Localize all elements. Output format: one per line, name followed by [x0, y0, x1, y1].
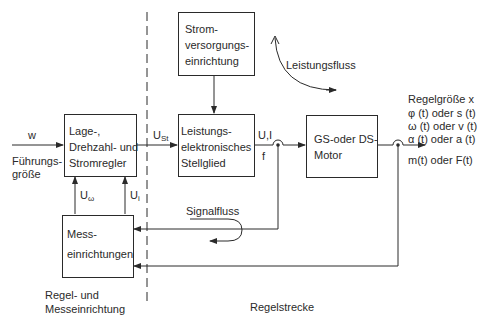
power-supply-label-3: einrichtung	[185, 53, 239, 69]
motor-block: GS-oder DS- Motor	[306, 115, 378, 178]
motor-label-1: GS-oder DS-	[314, 131, 378, 147]
left-section-label-1: Regel- und	[45, 288, 99, 302]
reference-label-2: größe	[12, 167, 41, 181]
output-title: Regelgröße x	[408, 92, 474, 106]
right-section-label: Regelstrecke	[250, 300, 314, 314]
power-supply-label-1: Strom-	[185, 21, 218, 37]
power-supply-label-2: versorgungs-	[185, 37, 249, 53]
signal-flow-label: Signalfluss	[186, 204, 239, 218]
measurement-block: Mess- einrichtungen	[62, 215, 134, 278]
power-electronics-label-3: Stellglied	[181, 155, 226, 171]
feedback-current-label: Ui	[130, 188, 140, 206]
motor-label-2: Motor	[314, 147, 342, 163]
power-output-f-label: f	[262, 149, 265, 163]
controller-label-2: Drehzahl- und	[69, 139, 138, 155]
measurement-label-2: einrichtungen	[67, 246, 133, 262]
reference-label-1: Führungs-	[12, 154, 62, 168]
output-line-2: ω (t) oder v (t)	[408, 119, 477, 133]
power-output-ui-label: U,I	[258, 128, 272, 142]
control-voltage-label: USt	[153, 128, 169, 146]
output-line-3: α (t) oder a (t)	[408, 132, 475, 146]
power-supply-block: Strom- versorgungs- einrichtung	[178, 12, 255, 76]
output-line-4: m(t) oder F(t)	[408, 153, 473, 167]
left-section-label-2: Messeinrichtung	[45, 302, 125, 316]
feedback-speed-label: Uω	[80, 188, 94, 206]
signal-flow-arrow	[190, 219, 242, 241]
output-line-1: φ (t) oder s (t)	[408, 106, 476, 120]
controller-block: Lage-, Drehzahl- und Stromregler	[64, 114, 137, 177]
power-electronics-label-1: Leistungs-	[181, 123, 232, 139]
power-flow-label: Leistungsfluss	[286, 58, 356, 72]
controller-label-1: Lage-,	[69, 123, 100, 139]
input-w-label: w	[28, 128, 36, 142]
power-electronics-label-2: elektronisches	[181, 139, 251, 155]
controller-label-3: Stromregler	[69, 155, 126, 171]
power-electronics-block: Leistungs- elektronisches Stellglied	[178, 114, 255, 177]
measurement-label-1: Mess-	[67, 226, 97, 242]
